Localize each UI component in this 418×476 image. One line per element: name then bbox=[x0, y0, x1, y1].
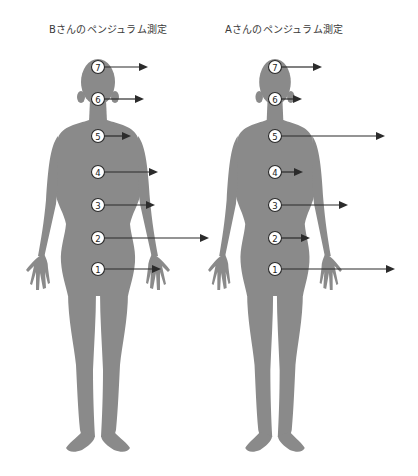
figure-b-body-silhouette bbox=[26, 59, 170, 452]
marker-number: 2 bbox=[272, 234, 277, 244]
arrow-head-icon bbox=[339, 201, 348, 209]
marker-number: 3 bbox=[95, 201, 100, 211]
arrow-head-icon bbox=[200, 234, 209, 242]
arrow-head-icon bbox=[139, 63, 148, 71]
marker-number: 7 bbox=[95, 63, 100, 73]
arrow-head-icon bbox=[149, 168, 158, 176]
arrow-head-icon bbox=[376, 132, 385, 140]
marker-number: 4 bbox=[272, 168, 277, 178]
marker-number: 5 bbox=[272, 132, 277, 142]
marker-number: 3 bbox=[272, 201, 277, 211]
arrow-head-icon bbox=[293, 95, 302, 103]
marker-number: 2 bbox=[95, 234, 100, 244]
figure-a-body-silhouette bbox=[208, 59, 342, 452]
marker-a-7: 7 bbox=[269, 61, 323, 74]
marker-number: 6 bbox=[95, 95, 100, 105]
marker-number: 4 bbox=[95, 168, 100, 178]
marker-number: 6 bbox=[272, 95, 277, 105]
arrow-head-icon bbox=[386, 265, 395, 273]
marker-number: 5 bbox=[95, 132, 100, 142]
marker-b-7: 7 bbox=[92, 61, 149, 74]
marker-number: 1 bbox=[95, 265, 100, 275]
arrow-head-icon bbox=[135, 95, 144, 103]
arrow-head-icon bbox=[313, 63, 322, 71]
marker-number: 1 bbox=[272, 265, 277, 275]
marker-number: 7 bbox=[272, 63, 277, 73]
